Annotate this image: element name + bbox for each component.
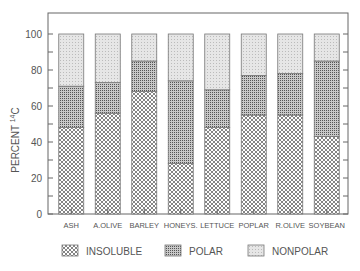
y-tick-label: 60 — [31, 101, 43, 112]
bar-segment-insoluble — [241, 115, 266, 214]
legend-label: NONPOLAR — [272, 246, 328, 257]
x-tick-label: ASH — [64, 221, 79, 230]
y-tick-label: 0 — [36, 209, 42, 220]
legend-swatch-polar — [165, 245, 181, 256]
bar-segment-polar — [59, 86, 84, 127]
x-tick-label: POPLAR — [239, 221, 270, 230]
bar-segment-insoluble — [278, 115, 303, 214]
bar-segment-insoluble — [132, 92, 157, 214]
y-tick-label: 20 — [31, 173, 43, 184]
y-axis-label: PERCENT 14C — [9, 107, 21, 172]
x-tick-label: BARLEY — [129, 221, 159, 230]
legend-swatch-nonpolar — [248, 245, 264, 256]
y-tick-label: 40 — [31, 137, 43, 148]
bars-group — [59, 34, 340, 214]
bar-segment-insoluble — [95, 113, 120, 214]
bar-segment-nonpolar — [314, 34, 339, 61]
bar-segment-polar — [132, 61, 157, 92]
y-tick-label: 100 — [25, 29, 42, 40]
bar-segment-polar — [241, 75, 266, 115]
bar-segment-insoluble — [59, 128, 84, 214]
bar-segment-insoluble — [168, 164, 193, 214]
bar-segment-nonpolar — [59, 34, 84, 86]
legend-swatch-insoluble — [62, 245, 78, 256]
bar-segment-nonpolar — [205, 34, 230, 90]
x-tick-label: R.OLIVE — [275, 221, 305, 230]
x-tick-label: HONEYS. — [164, 221, 198, 230]
bar-segment-polar — [95, 83, 120, 114]
bar-segment-nonpolar — [241, 34, 266, 75]
bar-segment-polar — [205, 90, 230, 128]
bar-segment-nonpolar — [278, 34, 303, 74]
bar-segment-nonpolar — [132, 34, 157, 61]
bar-segment-insoluble — [314, 137, 339, 214]
x-tick-label: A.OLIVE — [93, 221, 122, 230]
x-tick-label: SOYBEAN — [309, 221, 345, 230]
legend-label: INSOLUBLE — [86, 246, 142, 257]
bar-segment-polar — [168, 81, 193, 164]
legend: INSOLUBLEPOLARNONPOLAR — [62, 245, 328, 257]
x-tick-label: LETTUCE — [200, 221, 234, 230]
bar-segment-nonpolar — [168, 34, 193, 81]
bar-segment-polar — [278, 74, 303, 115]
y-tick-label: 80 — [31, 65, 43, 76]
stacked-bar-chart: 020406080100 ASHA.OLIVEBARLEYHONEYS.LETT… — [0, 0, 360, 271]
bar-segment-insoluble — [205, 128, 230, 214]
bar-segment-polar — [314, 61, 339, 137]
legend-label: POLAR — [189, 246, 223, 257]
bar-segment-nonpolar — [95, 34, 120, 83]
